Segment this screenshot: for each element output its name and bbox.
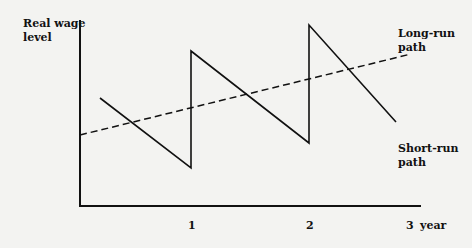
x-tick-1: 1 — [188, 219, 196, 232]
y-axis-label-line2: level — [23, 31, 86, 45]
y-axis-label-line1: Real wage — [23, 17, 86, 31]
x-tick-3: 3 — [406, 219, 414, 232]
wage-path-diagram: Real wage level Long-run path Short-run … — [0, 0, 472, 248]
long-run-label-line1: Long-run — [398, 27, 455, 41]
x-axis-unit-label: year — [420, 219, 446, 232]
short-run-label-line1: Short-run — [398, 142, 459, 156]
short-run-path-label: Short-run path — [398, 142, 459, 170]
short-run-path-line — [100, 25, 396, 168]
long-run-path-label: Long-run path — [398, 27, 455, 55]
short-run-label-line2: path — [398, 156, 459, 170]
y-axis-label: Real wage level — [23, 17, 86, 45]
x-tick-2: 2 — [306, 219, 314, 232]
long-run-label-line2: path — [398, 41, 455, 55]
